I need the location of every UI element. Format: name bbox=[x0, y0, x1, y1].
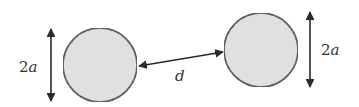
separation-arrow bbox=[139, 52, 223, 66]
two-spheres-diagram: 2a d 2a bbox=[0, 0, 359, 107]
left-diameter-number: 2 bbox=[19, 58, 29, 76]
right-diameter-number: 2 bbox=[321, 41, 331, 59]
right-diameter-label: 2a bbox=[321, 41, 340, 59]
left-sphere bbox=[63, 28, 137, 102]
right-diameter-variable: a bbox=[331, 41, 340, 59]
right-sphere bbox=[224, 13, 298, 87]
left-diameter-label: 2a bbox=[19, 58, 38, 76]
left-diameter-variable: a bbox=[29, 58, 38, 76]
separation-label: d bbox=[175, 67, 185, 85]
